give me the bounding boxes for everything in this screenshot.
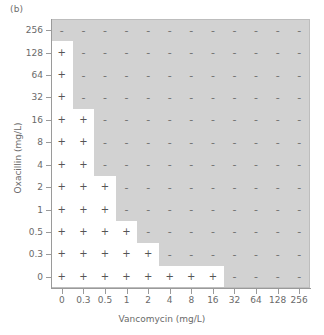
x-tick-mark — [148, 289, 149, 294]
x-tick-label: 2 — [145, 295, 151, 305]
nogrowth-minus-symbol: - — [168, 24, 172, 35]
nogrowth-minus-symbol: - — [146, 69, 150, 80]
nogrowth-minus-symbol: - — [168, 91, 172, 102]
growth-plus-symbol: + — [122, 249, 130, 259]
growth-plus-symbol: + — [79, 226, 87, 236]
nogrowth-minus-symbol: - — [189, 69, 193, 80]
x-tick-mark — [83, 289, 84, 294]
growth-plus-symbol: + — [58, 226, 66, 236]
y-tick-label: 2 — [37, 182, 43, 192]
x-tick-mark — [234, 289, 235, 294]
y-tick-label: 0.3 — [29, 249, 43, 259]
checkerboard-figure: (b) ------------+-----------+-----------… — [0, 0, 324, 335]
growth-plus-symbol: + — [187, 271, 195, 281]
grid-cell: + — [51, 243, 73, 265]
grid-cell: + — [51, 64, 73, 86]
growth-plus-symbol: + — [58, 92, 66, 102]
grid-cell: - — [245, 19, 267, 41]
nogrowth-minus-symbol: - — [254, 248, 258, 259]
nogrowth-minus-symbol: - — [81, 91, 85, 102]
grid-cell: - — [288, 19, 310, 41]
plot-area: ------------+-----------+-----------+---… — [51, 19, 310, 288]
growth-plus-symbol: + — [79, 271, 87, 281]
grid-cell: - — [288, 176, 310, 198]
grid-cell: - — [181, 64, 203, 86]
grid-cell: + — [137, 266, 159, 288]
nogrowth-minus-symbol: - — [297, 47, 301, 58]
grid-cell: - — [116, 64, 138, 86]
nogrowth-minus-symbol: - — [189, 136, 193, 147]
grid-cell: - — [288, 131, 310, 153]
grid-cell: + — [94, 221, 116, 243]
grid-cell: - — [245, 243, 267, 265]
y-tick-mark — [46, 30, 51, 31]
grid-cell: - — [224, 19, 246, 41]
nogrowth-minus-symbol: - — [189, 181, 193, 192]
grid-cell: - — [202, 109, 224, 131]
nogrowth-minus-symbol: - — [232, 248, 236, 259]
nogrowth-minus-symbol: - — [168, 248, 172, 259]
grid-cell: - — [202, 64, 224, 86]
grid-cell: - — [181, 153, 203, 175]
nogrowth-minus-symbol: - — [211, 248, 215, 259]
nogrowth-minus-symbol: - — [103, 24, 107, 35]
nogrowth-minus-symbol: - — [211, 226, 215, 237]
grid-cell: - — [159, 86, 181, 108]
grid-cell: - — [224, 266, 246, 288]
nogrowth-minus-symbol: - — [232, 204, 236, 215]
nogrowth-minus-symbol: - — [103, 69, 107, 80]
nogrowth-minus-symbol: - — [146, 47, 150, 58]
grid-cell: - — [137, 86, 159, 108]
grid-cell: + — [73, 266, 95, 288]
y-tick-label: 0.5 — [29, 227, 43, 237]
x-tick-mark — [127, 289, 128, 294]
nogrowth-minus-symbol: - — [232, 47, 236, 58]
nogrowth-minus-symbol: - — [254, 159, 258, 170]
growth-plus-symbol: + — [79, 114, 87, 124]
grid-cell: - — [245, 266, 267, 288]
grid-cell: - — [224, 198, 246, 220]
x-tick-label: 0.5 — [98, 295, 112, 305]
growth-plus-symbol: + — [58, 249, 66, 259]
grid-cell: - — [267, 64, 289, 86]
grid-cell: - — [288, 198, 310, 220]
x-tick-label: 0 — [59, 295, 65, 305]
nogrowth-minus-symbol: - — [297, 114, 301, 125]
y-tick-label: 0 — [37, 272, 43, 282]
grid-cell: - — [159, 109, 181, 131]
nogrowth-minus-symbol: - — [232, 271, 236, 282]
y-axis-line — [51, 19, 52, 289]
nogrowth-minus-symbol: - — [125, 91, 129, 102]
growth-plus-symbol: + — [166, 271, 174, 281]
nogrowth-minus-symbol: - — [232, 226, 236, 237]
grid-cell: - — [181, 243, 203, 265]
grid-cell: - — [94, 86, 116, 108]
nogrowth-minus-symbol: - — [211, 181, 215, 192]
grid-cell: + — [116, 243, 138, 265]
y-tick-mark — [46, 187, 51, 188]
nogrowth-minus-symbol: - — [276, 69, 280, 80]
nogrowth-minus-symbol: - — [189, 204, 193, 215]
nogrowth-minus-symbol: - — [276, 248, 280, 259]
y-tick-label: 1 — [37, 205, 43, 215]
x-tick-mark — [105, 289, 106, 294]
nogrowth-minus-symbol: - — [232, 136, 236, 147]
nogrowth-minus-symbol: - — [297, 181, 301, 192]
growth-plus-symbol: + — [144, 271, 152, 281]
grid-cell: + — [159, 266, 181, 288]
grid-cell: - — [224, 153, 246, 175]
grid-cell: + — [137, 243, 159, 265]
grid-cell: - — [159, 153, 181, 175]
growth-plus-symbol: + — [101, 182, 109, 192]
grid-cell: - — [137, 131, 159, 153]
grid-cell: - — [245, 41, 267, 63]
growth-plus-symbol: + — [58, 114, 66, 124]
x-tick-label: 4 — [167, 295, 173, 305]
grid-cell: - — [116, 19, 138, 41]
grid-cell: - — [94, 153, 116, 175]
nogrowth-minus-symbol: - — [254, 47, 258, 58]
x-tick-label: 256 — [291, 295, 308, 305]
nogrowth-minus-symbol: - — [189, 159, 193, 170]
nogrowth-minus-symbol: - — [211, 24, 215, 35]
growth-plus-symbol: + — [58, 204, 66, 214]
